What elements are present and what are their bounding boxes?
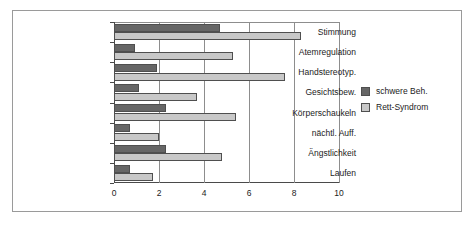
- bar: [114, 165, 130, 173]
- bar: [114, 124, 130, 132]
- x-tick-label-8: 8: [282, 188, 306, 198]
- category-label: Körperschaukeln: [292, 108, 356, 118]
- x-tick-label-0: 0: [102, 188, 126, 198]
- category-tick: [110, 183, 114, 184]
- bar: [114, 52, 233, 60]
- category-label: Laufen: [330, 168, 356, 178]
- legend-label: schwere Beh.: [376, 86, 428, 96]
- bar: [114, 145, 166, 153]
- chart-screenshot: StimmungAtemregulationHandstereotyp.Gesi…: [0, 0, 475, 234]
- x-tick-label-2: 2: [147, 188, 171, 198]
- category-label: Gesichtsbew.: [305, 87, 356, 97]
- plot-area: [114, 22, 339, 183]
- legend-swatch-icon: [361, 87, 370, 96]
- category-label: Atemregulation: [299, 47, 356, 57]
- bar: [114, 93, 197, 101]
- legend-item: schwere Beh.: [361, 83, 428, 99]
- gridline-10: [339, 22, 340, 183]
- x-tick-label-10: 10: [327, 188, 351, 198]
- legend-label: Rett-Syndrom: [376, 102, 428, 112]
- category-label: Handstereotyp.: [298, 67, 356, 77]
- category-label: Ängstlichkeit: [308, 148, 356, 158]
- bar: [114, 73, 285, 81]
- category-label: Stimmung: [318, 27, 356, 37]
- bar-group: [114, 22, 339, 42]
- bar: [114, 133, 159, 141]
- bar: [114, 64, 157, 72]
- x-tick-label-6: 6: [237, 188, 261, 198]
- chart-legend: schwere Beh.Rett-Syndrom: [361, 83, 428, 115]
- bar: [114, 173, 153, 181]
- bar: [114, 84, 139, 92]
- bar: [114, 44, 135, 52]
- bar: [114, 104, 166, 112]
- x-tick-label-4: 4: [192, 188, 216, 198]
- bar-group: [114, 123, 339, 143]
- legend-swatch-icon: [361, 103, 370, 112]
- bar: [114, 24, 220, 32]
- chart-frame: StimmungAtemregulationHandstereotyp.Gesi…: [12, 10, 462, 212]
- category-label: nächtl. Auff.: [312, 128, 356, 138]
- bar: [114, 113, 236, 121]
- bar: [114, 153, 222, 161]
- bar-group: [114, 143, 339, 163]
- legend-item: Rett-Syndrom: [361, 99, 428, 115]
- bar: [114, 32, 301, 40]
- bar-group: [114, 163, 339, 183]
